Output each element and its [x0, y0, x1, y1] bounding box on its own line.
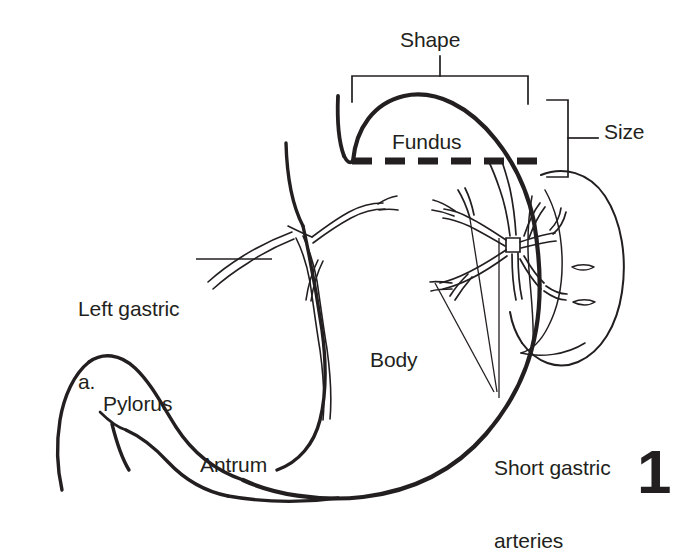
label-body: Body — [370, 348, 417, 372]
label-antrum: Antrum — [200, 453, 267, 477]
label-fundus: Fundus — [392, 130, 461, 154]
label-short-gastric-line2: arteries — [494, 529, 611, 552]
lesser-curvature — [277, 226, 325, 470]
label-short-gastric-arteries: Short gastric arteries — [494, 407, 611, 552]
esophagus — [286, 96, 353, 226]
label-size: Size — [604, 120, 644, 144]
label-left-gastric-line1: Left gastric — [78, 297, 180, 321]
size-bracket — [547, 100, 598, 177]
short-gastric-leader-line — [435, 219, 499, 398]
label-shape: Shape — [400, 28, 460, 52]
label-left-gastric-artery: Left gastric a. — [78, 248, 180, 443]
label-short-gastric-line1: Short gastric — [494, 456, 611, 480]
figure-number: 1 — [637, 441, 671, 503]
label-left-gastric-line2: a. — [78, 370, 180, 394]
